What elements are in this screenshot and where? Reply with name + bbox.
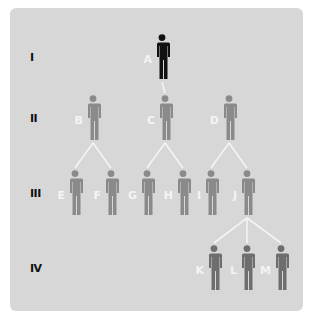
person-label-j: J	[233, 189, 237, 202]
person-label-i: I	[197, 189, 201, 202]
person-label-l: L	[230, 264, 237, 277]
person-label-e: E	[57, 189, 65, 202]
edge-D-J	[229, 143, 247, 168]
person-label-a: A	[143, 53, 152, 66]
edge-C-G	[147, 143, 165, 168]
person-icon-b	[84, 95, 102, 141]
generation-label: IV	[30, 262, 42, 275]
person-icon-f	[102, 170, 120, 216]
person-icon-h	[174, 170, 192, 216]
person-label-k: K	[195, 264, 204, 277]
person-icon-m	[272, 245, 290, 291]
person-label-d: D	[210, 114, 219, 127]
person-icon-i	[202, 170, 220, 216]
person-icon-e	[66, 170, 84, 216]
generation-label: II	[30, 112, 37, 125]
edge-B-F	[93, 143, 111, 168]
edge-D-I	[211, 143, 229, 168]
generation-label: I	[30, 51, 34, 64]
edge-C-H	[165, 143, 183, 168]
person-icon-c	[156, 95, 174, 141]
person-icon-a	[153, 34, 171, 80]
person-label-h: H	[164, 189, 173, 202]
edge-B-E	[75, 143, 93, 168]
generation-label: III	[30, 187, 41, 200]
edge-A-C	[162, 82, 165, 93]
person-label-m: M	[260, 264, 271, 277]
person-label-f: F	[93, 189, 101, 202]
person-icon-k	[205, 245, 223, 291]
person-icon-g	[138, 170, 156, 216]
person-icon-d	[220, 95, 238, 141]
person-label-b: B	[75, 114, 83, 127]
edge-J-M	[247, 218, 281, 243]
person-icon-l	[238, 245, 256, 291]
edge-J-K	[214, 218, 247, 243]
person-icon-j	[238, 170, 256, 216]
person-label-g: G	[128, 189, 137, 202]
person-label-c: C	[147, 114, 155, 127]
